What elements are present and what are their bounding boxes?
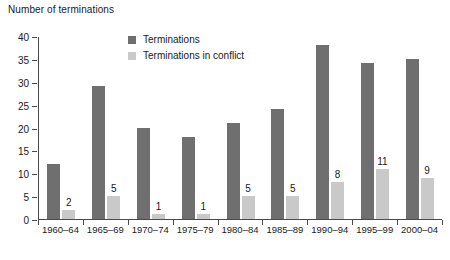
bar-group: 1	[129, 37, 174, 219]
bar-value-label: 2	[66, 198, 72, 208]
y-axis-tick	[32, 83, 37, 84]
x-axis-tick-label: 1970–74	[128, 224, 173, 235]
bar-terminations-in-conflict: 5	[107, 196, 120, 219]
y-axis-tick-label: 30	[18, 77, 29, 88]
bar-terminations-in-conflict: 1	[197, 214, 210, 219]
y-axis-tick-label: 40	[18, 32, 29, 43]
bar-terminations	[271, 109, 284, 219]
x-axis-tick-label: 1975–79	[173, 224, 218, 235]
bar-value-label: 5	[111, 184, 117, 194]
x-axis-tick-label: 1980–84	[218, 224, 263, 235]
bar-value-label: 9	[424, 166, 430, 176]
bar-terminations	[182, 137, 195, 219]
y-axis-tick-label: 5	[23, 192, 29, 203]
y-axis-tick	[32, 60, 37, 61]
y-axis-tick-label: 20	[18, 123, 29, 134]
bar-terminations	[92, 86, 105, 219]
y-axis-tick-label: 10	[18, 169, 29, 180]
bar-terminations-in-conflict: 5	[286, 196, 299, 219]
y-axis-tick	[32, 129, 37, 130]
y-axis-tick-label: 25	[18, 100, 29, 111]
bar-group: 11	[352, 37, 397, 219]
bar-chart: Number of terminations Terminations Term…	[0, 0, 450, 260]
bar-terminations-in-conflict: 5	[242, 196, 255, 219]
bar-group: 5	[84, 37, 129, 219]
bar-terminations	[137, 128, 150, 220]
bar-value-label: 1	[156, 202, 162, 212]
bar-group: 1	[173, 37, 218, 219]
x-axis-tick-label: 1990–94	[307, 224, 352, 235]
plot-area: 0510152025303540 2511558119	[38, 37, 442, 220]
bar-terminations-in-conflict: 8	[331, 182, 344, 219]
y-axis-tick	[32, 151, 37, 152]
bar-terminations	[406, 59, 419, 219]
bar-groups: 2511558119	[39, 37, 442, 219]
bar-group: 5	[218, 37, 263, 219]
bar-group: 9	[397, 37, 442, 219]
x-axis-tick	[442, 220, 443, 225]
x-axis-labels: 1960–641965–691970–741975–791980–841985–…	[38, 224, 442, 235]
bar-terminations	[316, 45, 329, 219]
bar-value-label: 8	[335, 170, 341, 180]
x-axis-tick-label: 1985–89	[262, 224, 307, 235]
bar-value-label: 5	[245, 184, 251, 194]
y-axis-tick	[32, 197, 37, 198]
y-axis-tick	[32, 220, 37, 221]
x-axis-tick-label: 2000–04	[397, 224, 442, 235]
bar-terminations	[227, 123, 240, 219]
y-axis-tick-label: 0	[23, 215, 29, 226]
bar-terminations	[47, 164, 60, 219]
x-axis-tick-label: 1960–64	[38, 224, 83, 235]
bar-terminations	[361, 63, 374, 219]
bar-value-label: 5	[290, 184, 296, 194]
bar-terminations-in-conflict: 2	[62, 210, 75, 219]
y-axis-tick	[32, 174, 37, 175]
x-axis-line	[38, 219, 442, 220]
bar-value-label: 1	[200, 202, 206, 212]
y-axis-tick	[32, 106, 37, 107]
bar-group: 2	[39, 37, 84, 219]
x-axis-tick-label: 1995–99	[352, 224, 397, 235]
y-axis-tick-label: 15	[18, 146, 29, 157]
bar-value-label: 11	[377, 157, 387, 167]
bar-group: 5	[263, 37, 308, 219]
y-axis-tick-label: 35	[18, 54, 29, 65]
bar-terminations-in-conflict: 11	[376, 169, 389, 219]
bar-group: 8	[308, 37, 353, 219]
y-axis-tick	[32, 37, 37, 38]
bar-terminations-in-conflict: 9	[421, 178, 434, 219]
bar-terminations-in-conflict: 1	[152, 214, 165, 219]
x-axis-tick-label: 1965–69	[83, 224, 128, 235]
y-axis-title: Number of terminations	[8, 4, 114, 15]
